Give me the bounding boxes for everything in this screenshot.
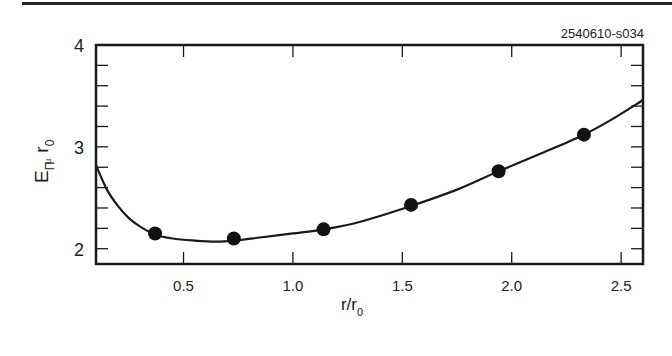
data-point xyxy=(492,164,506,178)
data-point xyxy=(577,128,591,142)
data-point xyxy=(148,226,162,240)
axis-ticks xyxy=(96,45,643,264)
plot-frame xyxy=(96,45,643,264)
y-tick-label: 4 xyxy=(74,36,84,56)
x-tick-label: 1.5 xyxy=(392,277,413,294)
fit-curve xyxy=(96,100,643,242)
data-point xyxy=(317,222,331,236)
x-axis-label: r/r0 xyxy=(341,295,363,318)
svg-text:EΠur0: EΠur0 xyxy=(31,139,57,183)
data-point xyxy=(404,198,418,212)
x-tick-label: 2.0 xyxy=(501,277,522,294)
x-tick-label: 0.5 xyxy=(173,277,194,294)
chart: 0.51.01.52.02.5234 EΠur0 r/r0 xyxy=(0,0,672,356)
x-tick-label: 1.0 xyxy=(282,277,303,294)
data-points xyxy=(148,128,591,246)
x-tick-label: 2.5 xyxy=(611,277,632,294)
y-axis-label: EΠur0 xyxy=(31,139,57,183)
tick-labels: 0.51.01.52.02.5234 xyxy=(74,36,632,294)
y-tick-label: 2 xyxy=(74,240,84,260)
data-point xyxy=(227,232,241,246)
y-tick-label: 3 xyxy=(74,138,84,158)
